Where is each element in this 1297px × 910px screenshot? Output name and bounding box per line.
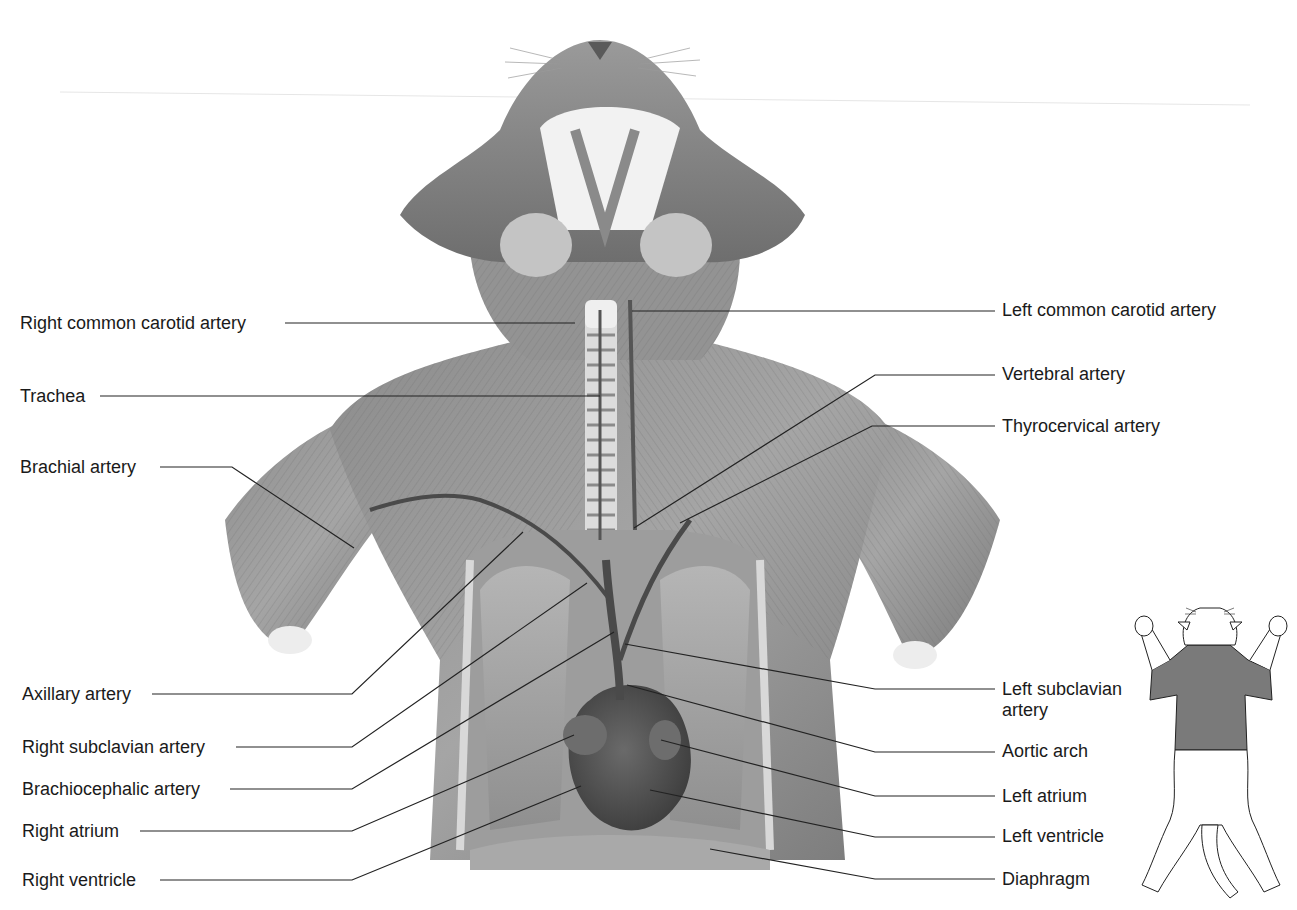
label-diaphragm: Diaphragm <box>1002 869 1090 890</box>
label-aortic-arch: Aortic arch <box>1002 741 1088 762</box>
label-brachial-artery: Brachial artery <box>20 457 136 478</box>
cat-thorax-illustration <box>0 0 1297 910</box>
label-right-atrium: Right atrium <box>22 821 119 842</box>
label-left-subclavian-artery: Left subclavian artery <box>1002 679 1147 721</box>
label-thyrocervical-artery: Thyrocervical artery <box>1002 416 1160 437</box>
label-axillary-artery: Axillary artery <box>22 684 131 705</box>
label-right-subclavian-artery: Right subclavian artery <box>22 737 205 758</box>
anatomy-figure: Right common carotid artery Trachea Brac… <box>0 0 1297 910</box>
label-vertebral-artery: Vertebral artery <box>1002 364 1125 385</box>
label-left-atrium: Left atrium <box>1002 786 1087 807</box>
label-left-ventricle: Left ventricle <box>1002 826 1104 847</box>
orientation-inset <box>1135 608 1287 898</box>
label-right-ventricle: Right ventricle <box>22 870 136 891</box>
label-trachea: Trachea <box>20 386 85 407</box>
label-right-common-carotid-artery: Right common carotid artery <box>20 313 246 334</box>
label-left-common-carotid-artery: Left common carotid artery <box>1002 300 1216 321</box>
label-brachiocephalic-artery: Brachiocephalic artery <box>22 779 200 800</box>
